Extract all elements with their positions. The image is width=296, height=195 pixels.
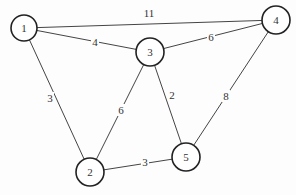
edge-weight-label: 3 [142, 156, 148, 168]
edge-1-2: 3 [24, 28, 90, 172]
node-1: 1 [11, 15, 37, 41]
edge-4-5: 8 [186, 20, 276, 157]
edge-weight-label: 11 [144, 7, 155, 19]
node-5: 5 [172, 143, 200, 171]
edge-1-4: 11 [24, 7, 276, 28]
node-label: 2 [87, 166, 93, 178]
node-label: 3 [147, 46, 153, 58]
edge-line [186, 20, 276, 157]
edge-3-4: 6 [150, 20, 276, 52]
edge-weight-label: 8 [223, 90, 229, 102]
edge-weight-label: 6 [208, 31, 214, 43]
edges: 114366283 [24, 7, 276, 172]
edge-3-5: 2 [150, 52, 186, 157]
edge-line [150, 52, 186, 157]
edge-3-2: 6 [90, 52, 150, 172]
edge-weight-label: 2 [169, 89, 175, 101]
edge-line [24, 28, 150, 52]
node-label: 5 [183, 151, 189, 163]
edge-weight-label: 3 [47, 92, 53, 104]
edge-line [24, 20, 276, 28]
node-2: 2 [76, 158, 104, 186]
node-label: 4 [273, 14, 279, 26]
edge-line [24, 28, 90, 172]
edge-weight-label: 4 [92, 36, 98, 48]
node-label: 1 [21, 22, 27, 34]
node-4: 4 [262, 6, 290, 34]
edge-1-3: 4 [24, 28, 150, 52]
node-3: 3 [136, 38, 164, 66]
weighted-graph: 114366283 12345 [0, 0, 296, 195]
edge-weight-label: 6 [118, 104, 124, 116]
